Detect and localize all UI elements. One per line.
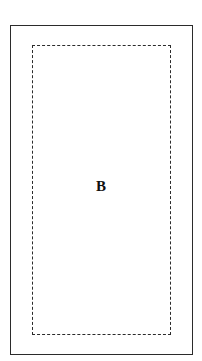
region-label-b: B bbox=[0, 178, 202, 194]
diagram-canvas: B bbox=[0, 0, 202, 361]
